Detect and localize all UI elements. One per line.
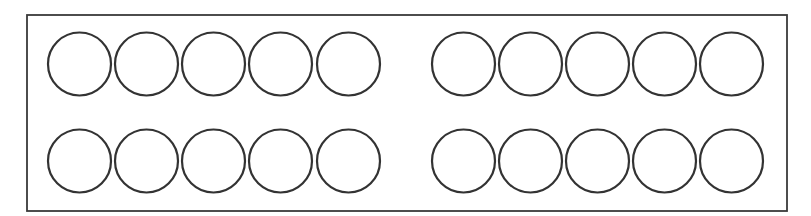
counter-circle [48, 130, 111, 193]
counter-circle [182, 130, 245, 193]
counter-circle [499, 33, 562, 96]
top-row [48, 33, 763, 96]
counters-layer [48, 33, 763, 193]
counter-circle [317, 130, 380, 193]
diagram-canvas [0, 0, 811, 216]
counter-circle [633, 33, 696, 96]
counter-circle [249, 130, 312, 193]
counter-circle [700, 33, 763, 96]
top-row-left-group [48, 33, 380, 96]
counter-circle [633, 130, 696, 193]
counter-circle [182, 33, 245, 96]
outer-rectangle-border [27, 15, 787, 211]
counter-circle [700, 130, 763, 193]
counter-circle [317, 33, 380, 96]
counter-circle [566, 130, 629, 193]
counter-circle [432, 33, 495, 96]
counter-circle [115, 33, 178, 96]
counter-circle [115, 130, 178, 193]
bottom-row [48, 130, 763, 193]
counter-circle [48, 33, 111, 96]
counter-circle [499, 130, 562, 193]
counter-circle [432, 130, 495, 193]
bottom-row-right-group [432, 130, 763, 193]
top-row-right-group [432, 33, 763, 96]
counter-circle [249, 33, 312, 96]
counter-circle [566, 33, 629, 96]
bottom-row-left-group [48, 130, 380, 193]
diagram-svg [0, 0, 811, 216]
